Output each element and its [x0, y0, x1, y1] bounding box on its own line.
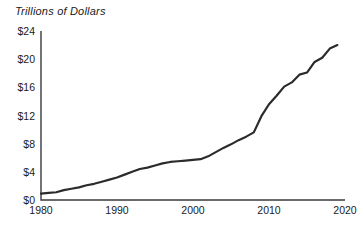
- x-tick-label: 1980: [29, 204, 52, 216]
- x-tick-label: 1990: [105, 204, 128, 216]
- data-series-line: [41, 45, 337, 194]
- y-tick-label: $16: [0, 81, 35, 93]
- x-tick-label: 2000: [181, 204, 204, 216]
- x-tick-label: 2020: [333, 204, 356, 216]
- y-tick-label: $24: [0, 25, 35, 37]
- x-tick-label: 2010: [257, 204, 280, 216]
- y-tick-label: $4: [0, 166, 35, 178]
- y-tick-label: $8: [0, 138, 35, 150]
- line-chart-plot: [0, 0, 358, 226]
- chart-page: Trillions of Dollars $0$4$8$12$16$20$24 …: [0, 0, 358, 226]
- y-tick-label: $20: [0, 53, 35, 65]
- y-tick-label: $12: [0, 110, 35, 122]
- chart-axes: [41, 31, 345, 200]
